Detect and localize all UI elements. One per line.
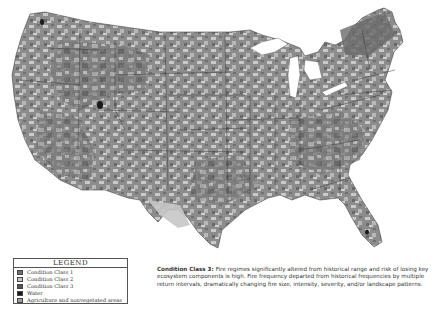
caption-heading: Condition Class 3: [157, 266, 216, 272]
condition-class-3-swatch [17, 284, 23, 289]
legend-label: Condition Class 3 [27, 283, 73, 290]
condition-class-2-swatch [17, 277, 23, 282]
map-legend: LEGEND Condition Class 1 Condition Class… [13, 258, 128, 304]
legend-label: Water [27, 290, 43, 297]
agriculture-swatch [17, 298, 23, 303]
legend-label: Condition Class 2 [27, 276, 73, 283]
water-swatch [17, 291, 23, 296]
legend-items: Condition Class 1 Condition Class 2 Cond… [14, 268, 127, 305]
water-okeechobee [365, 230, 369, 235]
legend-title: LEGEND [14, 259, 127, 268]
map-caption: Condition Class 3: Fire regimes signific… [157, 266, 435, 288]
conterminous-us-map-graphic [0, 0, 438, 260]
water-puget-sound [40, 19, 44, 25]
condition-class-1-swatch [17, 270, 23, 275]
legend-label: Condition Class 1 [27, 269, 73, 276]
legend-item-condition-class-2: Condition Class 2 [17, 276, 124, 283]
legend-item-agriculture: Agriculture and nonvegetated areas [17, 297, 124, 304]
us-map [0, 0, 438, 260]
legend-item-water: Water [17, 290, 124, 297]
legend-item-condition-class-3: Condition Class 3 [17, 283, 124, 290]
legend-label: Agriculture and nonvegetated areas [27, 297, 122, 304]
water-great-salt-lake [97, 101, 103, 109]
legend-item-condition-class-1: Condition Class 1 [17, 269, 124, 276]
